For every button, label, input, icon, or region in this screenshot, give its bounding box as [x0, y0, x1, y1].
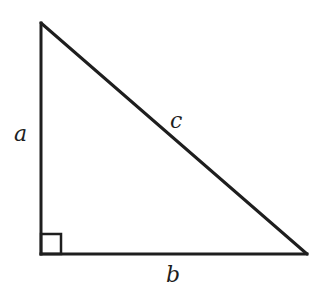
label-b: b: [166, 262, 180, 287]
label-c: c: [170, 108, 182, 133]
label-a: a: [14, 121, 27, 146]
right-angle-marker: [41, 234, 61, 254]
side-c-hypotenuse: [41, 23, 307, 254]
right-triangle-diagram: a c b: [0, 0, 333, 298]
